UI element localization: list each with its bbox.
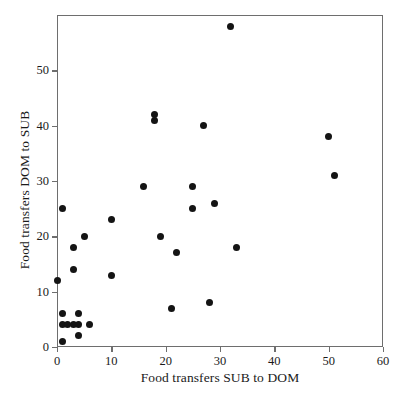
scatter-plot-figure: Food transfers SUB to DOM Food transfers…: [0, 0, 404, 395]
data-point: [151, 117, 158, 124]
data-point: [157, 233, 164, 240]
x-tick-label: 50: [309, 354, 349, 368]
x-tick-label: 10: [91, 354, 131, 368]
y-tick-label: 20: [19, 229, 49, 243]
data-point: [70, 266, 77, 273]
data-point: [189, 205, 196, 212]
data-point: [200, 122, 207, 129]
x-axis-label: Food transfers SUB to DOM: [57, 370, 383, 386]
data-point: [75, 310, 82, 317]
data-point: [173, 249, 180, 256]
x-tick-label: 60: [363, 354, 403, 368]
y-tick-mark: [52, 236, 57, 237]
data-point: [108, 272, 115, 279]
x-tick-mark: [220, 347, 221, 352]
data-point: [325, 133, 332, 140]
y-tick-mark: [52, 292, 57, 293]
y-tick-label: 40: [19, 119, 49, 133]
data-point: [59, 205, 66, 212]
y-tick-label: 0: [19, 340, 49, 354]
data-point: [331, 172, 338, 179]
x-tick-label: 40: [254, 354, 294, 368]
y-tick-mark: [52, 70, 57, 71]
x-tick-label: 20: [146, 354, 186, 368]
data-point: [54, 277, 61, 284]
plot-data-area: [57, 15, 383, 347]
x-tick-mark: [57, 347, 58, 352]
y-tick-label: 10: [19, 285, 49, 299]
data-point: [70, 244, 77, 251]
data-point: [233, 244, 240, 251]
y-tick-label: 50: [19, 63, 49, 77]
data-point: [140, 183, 147, 190]
y-tick-mark: [52, 347, 57, 348]
data-point: [211, 200, 218, 207]
data-point: [75, 332, 82, 339]
y-tick-mark: [52, 181, 57, 182]
x-tick-mark: [274, 347, 275, 352]
y-tick-mark: [52, 126, 57, 127]
data-point: [189, 183, 196, 190]
data-point: [75, 321, 82, 328]
data-point: [59, 310, 66, 317]
data-point: [206, 299, 213, 306]
data-point: [86, 321, 93, 328]
x-tick-label: 30: [200, 354, 240, 368]
x-tick-mark: [166, 347, 167, 352]
data-point: [168, 305, 175, 312]
data-point: [227, 23, 234, 30]
x-tick-mark: [329, 347, 330, 352]
data-point: [59, 338, 66, 345]
x-tick-mark: [383, 347, 384, 352]
x-tick-label: 0: [37, 354, 77, 368]
data-point: [108, 216, 115, 223]
x-tick-mark: [111, 347, 112, 352]
data-point: [81, 233, 88, 240]
y-tick-label: 30: [19, 174, 49, 188]
